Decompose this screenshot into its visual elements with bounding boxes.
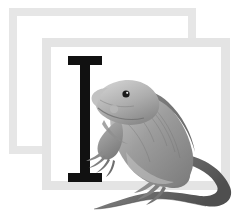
front-frame-mat [51,47,221,181]
illustration-alt-text: Letter I is for Iguana [0,0,1,1]
illustration-canvas: Letter I is for Iguana [0,0,238,211]
front-picture-frame [42,38,230,190]
